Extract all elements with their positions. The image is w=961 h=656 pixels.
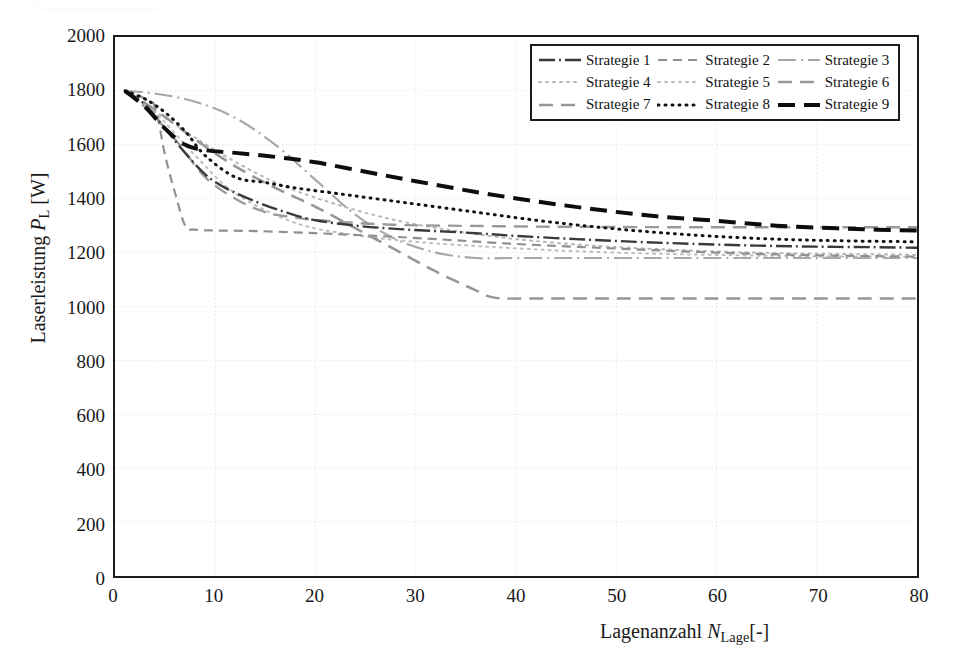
- x-axis-title-unit: [-]: [749, 620, 769, 642]
- y-tick-label: 1800: [9, 80, 105, 99]
- y-tick-label: 1400: [9, 189, 105, 208]
- x-tick-label: 50: [587, 586, 647, 605]
- y-tick-label: 1200: [9, 243, 105, 262]
- legend-item-label: Strategie 7: [586, 97, 651, 112]
- legend-item-6[interactable]: Strategie 6: [775, 71, 894, 93]
- legend-box: Strategie 1Strategie 2Strategie 3Strateg…: [530, 44, 900, 121]
- legend-line-swatch: [777, 99, 821, 111]
- x-tick-label: 70: [788, 586, 848, 605]
- x-axis-title-prefix: Lagenanzahl: [600, 620, 707, 642]
- x-tick-label: 0: [83, 586, 143, 605]
- y-tick-label: 1600: [9, 135, 105, 154]
- legend-item-label: Strategie 4: [586, 75, 651, 90]
- y-tick-label: 600: [9, 406, 105, 425]
- legend-line-swatch: [538, 76, 582, 88]
- legend-item-4[interactable]: Strategie 4: [536, 71, 655, 93]
- x-axis-title-subscript: Lage: [721, 629, 750, 645]
- legend-line-swatch: [657, 54, 701, 66]
- legend-line-swatch: [538, 99, 582, 111]
- legend-item-1[interactable]: Strategie 1: [536, 49, 655, 71]
- y-tick-label: 2000: [9, 26, 105, 45]
- x-tick-label: 40: [486, 586, 546, 605]
- legend-line-swatch: [657, 76, 701, 88]
- x-axis-title-symbol: N: [707, 620, 720, 642]
- legend-grid: Strategie 1Strategie 2Strategie 3Strateg…: [536, 49, 894, 116]
- legend-line-swatch: [777, 54, 821, 66]
- legend-line-swatch: [538, 54, 582, 66]
- figure-container: Laserleistung PL [W] 2000180016001400120…: [0, 0, 961, 656]
- y-tick-label: 800: [9, 352, 105, 371]
- y-tick-label: 1000: [9, 298, 105, 317]
- x-tick-label: 60: [688, 586, 748, 605]
- legend-item-label: Strategie 8: [705, 97, 770, 112]
- x-tick-label: 80: [889, 586, 949, 605]
- x-axis-title: Lagenanzahl NLage[-]: [600, 620, 769, 646]
- legend-item-9[interactable]: Strategie 9: [775, 94, 894, 116]
- y-tick-label: 200: [9, 515, 105, 534]
- legend-item-label: Strategie 5: [705, 75, 770, 90]
- cropped-artifact: [36, 0, 163, 10]
- legend-item-3[interactable]: Strategie 3: [775, 49, 894, 71]
- legend-item-label: Strategie 2: [705, 53, 770, 68]
- legend-item-label: Strategie 9: [825, 97, 890, 112]
- x-tick-label: 10: [184, 586, 244, 605]
- x-tick-label: 20: [285, 586, 345, 605]
- legend-line-swatch: [777, 76, 821, 88]
- legend-item-8[interactable]: Strategie 8: [655, 94, 774, 116]
- x-axis-tick-labels: 01020304050607080: [113, 586, 919, 612]
- y-tick-label: 400: [9, 460, 105, 479]
- legend-item-label: Strategie 6: [825, 75, 890, 90]
- legend-item-2[interactable]: Strategie 2: [655, 49, 774, 71]
- legend-item-label: Strategie 1: [586, 53, 651, 68]
- legend-item-label: Strategie 3: [825, 53, 890, 68]
- x-tick-label: 30: [385, 586, 445, 605]
- legend-item-5[interactable]: Strategie 5: [655, 71, 774, 93]
- legend-line-swatch: [657, 99, 701, 111]
- legend-item-7[interactable]: Strategie 7: [536, 94, 655, 116]
- y-axis-tick-labels: 2000180016001400120010008006004002000: [0, 35, 105, 578]
